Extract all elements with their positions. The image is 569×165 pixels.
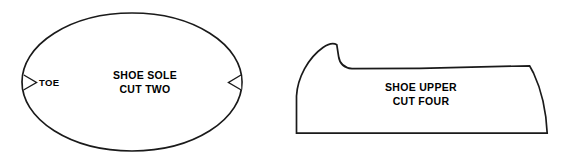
toe-notch-label: TOE — [39, 77, 60, 88]
shoe-upper-name-line-1: SHOE UPPER — [385, 81, 457, 93]
shoe-sole-piece: TOE SHOE SOLE CUT TWO — [22, 13, 242, 151]
shoe-sole-name-line-2: CUT TWO — [119, 83, 170, 95]
pattern-drawing: TOE SHOE SOLE CUT TWO SHOE UPPER CUT FOU… — [0, 0, 569, 165]
shoe-upper-name-line-2: CUT FOUR — [393, 95, 450, 107]
shoe-upper-piece: SHOE UPPER CUT FOUR — [297, 44, 548, 134]
pattern-sheet: TOE SHOE SOLE CUT TWO SHOE UPPER CUT FOU… — [0, 0, 569, 165]
shoe-sole-name-line-1: SHOE SOLE — [113, 69, 177, 81]
